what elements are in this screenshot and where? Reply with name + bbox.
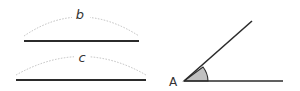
segment-c-label: c (78, 50, 85, 65)
segment-b-group: b (24, 6, 139, 41)
geometry-diagram: b c A (0, 0, 300, 91)
angle-a-group: A (169, 21, 283, 89)
segment-c-group: c (16, 50, 146, 80)
angle-a-wedge (184, 67, 208, 81)
angle-a-slanted-ray (184, 21, 252, 81)
angle-vertex-label: A (169, 75, 178, 89)
segment-b-label: b (76, 7, 84, 22)
